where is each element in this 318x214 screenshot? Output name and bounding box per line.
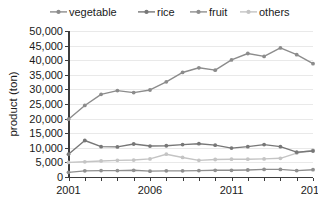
data-point — [148, 157, 152, 161]
y-tick-label: 50,000 — [29, 25, 63, 37]
data-point — [230, 58, 234, 62]
data-point — [148, 169, 152, 173]
data-point — [279, 156, 283, 160]
legend-item-vegetable[interactable]: vegetable — [50, 6, 117, 18]
data-point — [279, 46, 283, 50]
data-point — [116, 158, 120, 162]
series-others — [67, 148, 315, 164]
data-point — [116, 145, 120, 149]
y-tick-label: 40,000 — [29, 54, 63, 66]
x-tick-label: 2001 — [56, 184, 80, 196]
series-line-others — [69, 150, 314, 162]
y-tick-label: 25,000 — [29, 98, 63, 110]
data-point — [99, 169, 103, 173]
data-point — [197, 142, 201, 146]
x-tick-label: 2011 — [220, 184, 244, 196]
legend-item-fruit[interactable]: fruit — [190, 6, 227, 18]
y-tick-label: 45,000 — [29, 40, 63, 52]
data-point — [67, 170, 71, 174]
data-point — [246, 157, 250, 161]
data-point — [213, 158, 217, 162]
data-point — [230, 168, 234, 172]
chart-canvas: 05,00010,00015,00020,00025,00030,00035,0… — [0, 0, 318, 214]
data-point — [213, 168, 217, 172]
legend-marker-fruit — [196, 10, 200, 14]
y-tick-label: 0 — [57, 171, 63, 183]
data-point — [197, 158, 201, 162]
data-point — [164, 144, 168, 148]
data-point — [197, 169, 201, 173]
legend-label-rice: rice — [157, 6, 175, 18]
data-point — [262, 143, 266, 147]
data-point — [67, 117, 71, 121]
data-point — [295, 53, 299, 57]
y-tick-label: 10,000 — [29, 142, 63, 154]
data-point — [83, 104, 87, 108]
series-fruit — [67, 168, 315, 175]
data-point — [262, 157, 266, 161]
line-chart: 05,00010,00015,00020,00025,00030,00035,0… — [0, 0, 318, 214]
data-point — [67, 152, 71, 156]
data-point — [262, 55, 266, 59]
data-point — [116, 169, 120, 173]
data-point — [67, 161, 71, 165]
data-point — [83, 139, 87, 143]
data-point — [246, 145, 250, 149]
data-point — [279, 168, 283, 172]
data-point — [311, 149, 315, 153]
data-point — [279, 145, 283, 149]
data-point — [132, 142, 136, 146]
series-line-fruit — [69, 169, 314, 172]
data-point — [246, 52, 250, 56]
gridlines-group — [69, 32, 314, 163]
data-point — [132, 91, 136, 95]
y-axis-title: product (ton) — [7, 71, 19, 136]
data-point — [164, 152, 168, 156]
data-point — [230, 157, 234, 161]
legend-item-others[interactable]: others — [240, 6, 290, 18]
data-point — [246, 168, 250, 172]
data-point — [311, 168, 315, 172]
y-tick-labels-group: 05,00010,00015,00020,00025,00030,00035,0… — [29, 25, 63, 183]
x-tick-label: 2006 — [138, 184, 162, 196]
x-tick-labels-group: 2001200620112016 — [56, 184, 318, 196]
y-tick-label: 5,000 — [35, 156, 63, 168]
data-point — [181, 71, 185, 75]
y-tick-label: 35,000 — [29, 69, 63, 81]
data-point — [99, 92, 103, 96]
legend-label-others: others — [259, 6, 290, 18]
y-tick-label: 30,000 — [29, 83, 63, 95]
legend-marker-others — [246, 10, 250, 14]
y-axis-title-group: product (ton) — [7, 71, 19, 136]
legend-item-rice[interactable]: rice — [138, 6, 175, 18]
y-tick-label: 20,000 — [29, 113, 63, 125]
data-point — [116, 89, 120, 93]
data-point — [213, 68, 217, 72]
data-point — [99, 159, 103, 163]
data-point — [132, 158, 136, 162]
series-line-rice — [69, 141, 314, 155]
data-point — [311, 62, 315, 66]
legend-marker-rice — [144, 10, 148, 14]
legend-group: vegetablericefruitothers — [50, 6, 290, 18]
data-point — [295, 150, 299, 154]
series-rice — [67, 139, 315, 157]
data-point — [197, 66, 201, 70]
data-point — [213, 143, 217, 147]
data-point — [148, 88, 152, 92]
legend-label-vegetable: vegetable — [69, 6, 117, 18]
x-tick-label: 2016 — [301, 184, 318, 196]
data-point — [181, 169, 185, 173]
data-point — [83, 169, 87, 173]
series-line-vegetable — [69, 48, 314, 119]
data-point — [262, 168, 266, 172]
y-tick-label: 15,000 — [29, 127, 63, 139]
data-point — [83, 160, 87, 164]
data-point — [99, 145, 103, 149]
data-point — [132, 168, 136, 172]
data-point — [230, 146, 234, 150]
data-point — [164, 80, 168, 84]
series-vegetable — [67, 46, 315, 121]
data-point — [148, 144, 152, 148]
data-point — [181, 156, 185, 160]
